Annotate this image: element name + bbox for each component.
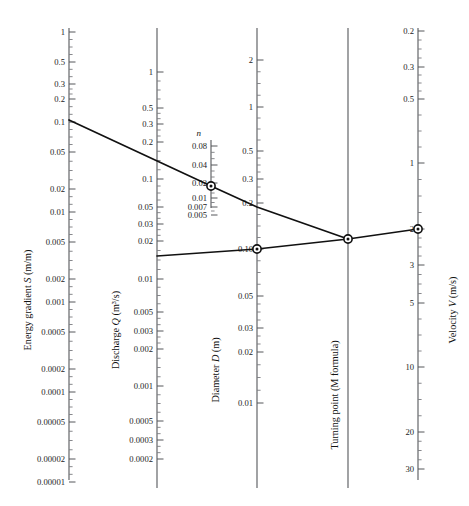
tick-label-energy-gradient: 0.1 [54,117,65,127]
tick-label-diameter: 0.3 [242,174,253,184]
lower-solution-line [157,229,418,256]
tick-label-discharge: 0.3 [142,119,153,129]
solution-lines-group [69,120,418,256]
axis-title-turning-point: Turning point (M formula) [329,340,341,449]
tick-label-discharge: 1 [149,67,153,77]
marker-roughness-center [210,185,213,188]
axis-lines-group [69,28,418,488]
tick-label-energy-gradient: 0.0002 [41,364,65,374]
tick-label-discharge: 0.5 [142,103,153,113]
tick-label-roughness: 0.08 [192,141,207,151]
axis-ticks-group [69,31,425,482]
axis-tick-labels-group: 10.50.30.20.10.050.020.010.0050.0020.001… [37,26,414,487]
tick-label-discharge: 0.03 [138,219,153,229]
tick-label-discharge: 0.01 [138,274,153,284]
tick-label-velocity: 0.5 [403,94,414,104]
tick-label-energy-gradient: 0.02 [50,184,65,194]
upper-solution-line [69,120,348,239]
tick-label-discharge: 0.2 [142,137,153,147]
tick-label-energy-gradient: 0.05 [50,147,65,157]
axis-title-velocity: Velocity V (m/s) [447,277,459,344]
axis-title-diameter: Diameter D (m) [210,337,222,402]
tick-label-energy-gradient: 0.0001 [41,387,65,397]
tick-label-energy-gradient: 0.00002 [37,454,65,464]
tick-label-discharge: 0.0005 [129,416,153,426]
tick-label-diameter: 0.03 [238,323,253,333]
tick-label-velocity: 0.2 [403,26,414,36]
tick-label-velocity: 1 [410,158,414,168]
tick-label-velocity: 10 [405,362,414,372]
tick-label-diameter: 0.05 [238,291,253,301]
marker-velocity-center [417,228,420,231]
tick-label-roughness: 0.005 [188,210,207,220]
tick-label-discharge: 0.05 [138,202,153,212]
tick-label-energy-gradient: 0.0005 [41,327,65,337]
tick-label-velocity: 0.3 [403,62,414,72]
tick-label-discharge: 0.02 [138,236,153,246]
tick-label-energy-gradient: 0.01 [50,207,65,217]
tick-label-diameter: 0.02 [238,347,253,357]
marker-diameter-center [256,248,259,251]
nomogram-canvas: 10.50.30.20.10.050.020.010.0050.0020.001… [0,0,469,506]
tick-label-diameter: 0.01 [238,398,253,408]
tick-label-roughness: 0.04 [192,160,208,170]
axis-title-roughness: n [197,128,202,138]
tick-label-discharge: 0.002 [134,344,153,354]
tick-label-discharge: 0.005 [134,307,153,317]
tick-label-energy-gradient: 0.001 [46,297,65,307]
tick-label-discharge: 0.003 [134,326,153,336]
tick-label-discharge: 0.001 [134,381,153,391]
tick-label-energy-gradient: 0.002 [46,274,65,284]
tick-label-discharge: 0.0003 [129,435,153,445]
tick-label-velocity: 20 [405,427,414,437]
tick-label-energy-gradient: 0.5 [54,57,65,67]
tick-label-energy-gradient: 0.00001 [37,477,65,487]
tick-label-velocity: 3 [410,260,414,270]
tick-label-diameter: 2 [249,55,253,65]
tick-label-velocity: 5 [410,298,414,308]
tick-label-energy-gradient: 0.2 [54,94,65,104]
tick-label-diameter: 1 [249,102,253,112]
tick-label-discharge: 0.0002 [129,454,153,464]
tick-label-diameter: 0.5 [242,146,253,156]
tick-label-energy-gradient: 1 [61,27,65,37]
tick-label-energy-gradient: 0.3 [54,79,65,89]
nomogram-figure: 10.50.30.20.10.050.020.010.0050.0020.001… [0,0,469,506]
marker-turning-point-center [347,238,350,241]
tick-label-velocity: 30 [405,464,414,474]
tick-label-energy-gradient: 0.00005 [37,417,65,427]
tick-label-energy-gradient: 0.005 [46,237,65,247]
tick-label-discharge: 0.1 [142,174,153,184]
axis-title-energy-gradient: Energy gradient S (m/m) [22,250,34,351]
axis-title-discharge: Discharge Q (m³/s) [110,291,122,369]
